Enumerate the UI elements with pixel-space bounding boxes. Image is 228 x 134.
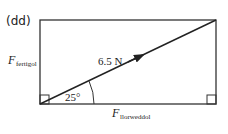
vertical-force-symbol: F bbox=[7, 53, 16, 67]
force-resolution-diagram: 6.5 N 25° F fertigol F llorweddol bbox=[0, 0, 228, 134]
resultant-label: 6.5 N bbox=[98, 55, 123, 67]
resultant-arrow bbox=[128, 56, 140, 62]
vertical-force-subscript: fertigol bbox=[16, 60, 37, 68]
right-angle-marker-right bbox=[207, 95, 216, 104]
horizontal-force-symbol: F bbox=[111, 106, 120, 120]
angle-label: 25° bbox=[65, 91, 80, 103]
horizontal-force-subscript: llorweddol bbox=[120, 113, 150, 121]
angle-arc bbox=[89, 81, 94, 104]
